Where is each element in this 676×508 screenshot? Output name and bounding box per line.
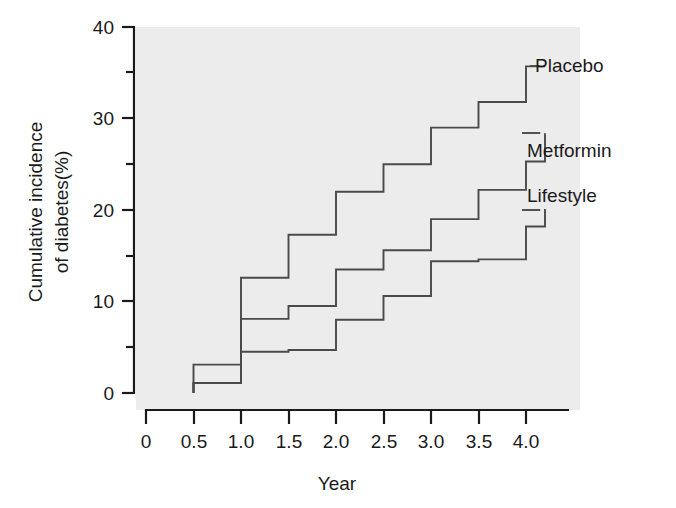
series-label-metformin: Metformin xyxy=(527,140,611,161)
y-tick-label-30: 30 xyxy=(93,108,114,129)
x-tick-label-4-0: 4.0 xyxy=(513,431,539,452)
plot-background xyxy=(136,27,580,410)
y-tick-label-0: 0 xyxy=(103,383,114,404)
x-tick-label-2-0: 2.0 xyxy=(323,431,349,452)
x-axis-ticks xyxy=(146,410,526,424)
y-axis-title-line-1: Cumulative incidence xyxy=(25,122,46,303)
y-tick-label-40: 40 xyxy=(93,17,114,38)
x-axis-tick-labels: 0 0.5 1.0 1.5 2.0 2.5 3.0 3.5 4.0 xyxy=(141,431,540,452)
y-axis-tick-labels: 40 30 20 10 0 xyxy=(93,17,114,404)
x-tick-label-1-5: 1.5 xyxy=(276,431,302,452)
x-tick-label-2-5: 2.5 xyxy=(371,431,397,452)
series-label-placebo: Placebo xyxy=(535,55,604,76)
x-tick-label-1-0: 1.0 xyxy=(228,431,254,452)
y-axis-ticks xyxy=(122,27,134,393)
y-tick-label-20: 20 xyxy=(93,200,114,221)
x-tick-label-0: 0 xyxy=(141,431,152,452)
series-label-lifestyle: Lifestyle xyxy=(527,185,597,206)
step-chart: 40 30 20 10 0 0 0.5 1.0 1.5 2.0 2.5 3.0 … xyxy=(0,0,676,508)
y-axis-title-line-2: of diabetes(%) xyxy=(51,151,72,274)
x-tick-label-3-0: 3.0 xyxy=(418,431,444,452)
x-axis-title: Year xyxy=(318,473,357,494)
x-tick-label-0-5: 0.5 xyxy=(181,431,207,452)
x-tick-label-3-5: 3.5 xyxy=(466,431,492,452)
figure-container: 40 30 20 10 0 0 0.5 1.0 1.5 2.0 2.5 3.0 … xyxy=(0,0,676,508)
y-tick-label-10: 10 xyxy=(93,291,114,312)
